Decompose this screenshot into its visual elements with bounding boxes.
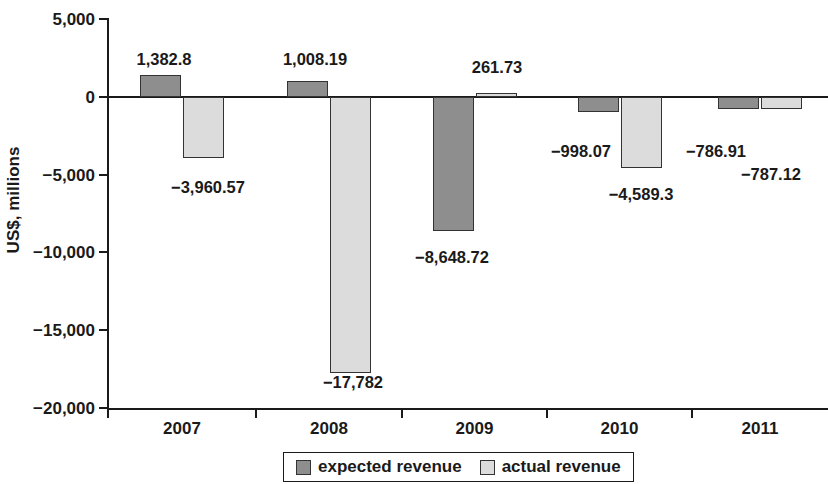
bar-2009-expected	[433, 97, 474, 232]
bar-2008-expected	[287, 81, 328, 97]
legend-label-expected-revenue: expected revenue	[318, 457, 462, 477]
chart-legend: expected revenue actual revenue	[283, 452, 634, 482]
bar-chart: US$, millions 5,0000−5,000−10,000−15,000…	[0, 0, 828, 484]
legend-item-expected-revenue: expected revenue	[296, 457, 462, 477]
legend-item-actual-revenue: actual revenue	[480, 457, 621, 477]
legend-label-actual-revenue: actual revenue	[502, 457, 621, 477]
y-axis-tick	[99, 174, 109, 176]
y-axis-line	[107, 19, 109, 409]
x-axis-category-label: 2010	[560, 419, 680, 439]
x-axis-category-label: 2008	[269, 419, 389, 439]
bar-value-label-2009-actual: 261.73	[407, 58, 587, 77]
bar-2010-expected	[578, 97, 619, 113]
x-axis-tick	[691, 409, 693, 418]
x-axis-tick	[255, 409, 257, 418]
x-axis-category-label: 2011	[700, 419, 820, 439]
y-axis-tick	[99, 18, 109, 20]
bar-value-label-2011-expected: −786.91	[626, 142, 806, 161]
bar-2008-actual	[330, 97, 371, 374]
bar-value-label-2008-actual: −17,782	[263, 373, 443, 392]
legend-swatch-expected-revenue	[296, 460, 311, 475]
x-axis-line	[107, 408, 828, 410]
x-axis-tick	[546, 409, 548, 418]
y-axis-tick	[99, 329, 109, 331]
bar-2007-actual	[183, 97, 224, 159]
bar-2009-actual	[476, 93, 517, 97]
bar-2007-expected	[140, 75, 181, 97]
legend-swatch-actual-revenue	[480, 460, 495, 475]
x-axis-category-label: 2007	[122, 419, 242, 439]
bar-value-label-2010-actual: −4,589.3	[551, 185, 731, 204]
bar-value-label-2011-actual: −787.12	[681, 165, 828, 184]
x-axis-category-label: 2009	[415, 419, 535, 439]
bar-2011-expected	[718, 97, 759, 109]
x-axis-tick	[107, 409, 109, 418]
bar-value-label-2008-expected: 1,008.19	[225, 50, 405, 69]
y-axis-tick	[99, 96, 109, 98]
bar-value-label-2007-actual: −3,960.57	[118, 178, 298, 197]
bar-value-label-2009-expected: −8,648.72	[362, 248, 542, 267]
x-axis-tick	[401, 409, 403, 418]
y-axis-tick	[99, 251, 109, 253]
bar-2011-actual	[761, 97, 802, 109]
